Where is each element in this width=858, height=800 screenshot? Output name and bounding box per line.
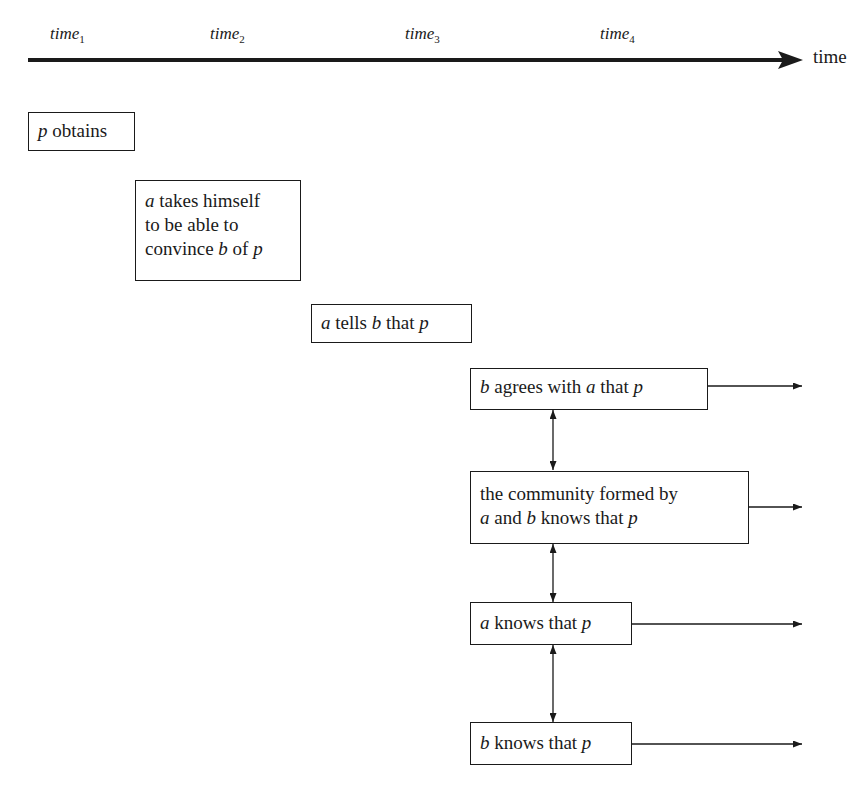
box-b-agrees-with-a: b agrees with a that p (470, 368, 708, 410)
time-label-2: time2 (210, 24, 245, 45)
box-a-knows: a knows that p (470, 602, 632, 645)
box-community-knows: the community formed by a and b knows th… (470, 471, 749, 544)
box-a-tells-b: a tells b that p (311, 304, 472, 343)
box-a-takes-himself: a takes himself to be able to convince b… (135, 180, 301, 281)
box-b-knows: b knows that p (470, 722, 632, 765)
box-p-obtains: p obtains (28, 112, 135, 151)
time-label-3: time3 (405, 24, 440, 45)
time-label-1: time1 (50, 24, 85, 45)
time-label-4: time4 (600, 24, 635, 45)
time-axis-arrow (28, 51, 803, 69)
time-axis-label: time (813, 46, 847, 68)
